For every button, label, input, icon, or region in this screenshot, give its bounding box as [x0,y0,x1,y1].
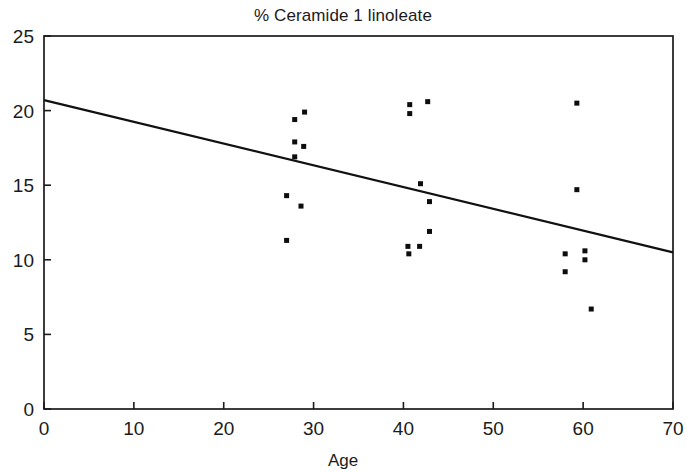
data-point [417,244,422,249]
data-point [418,181,423,186]
data-point [563,269,568,274]
data-point [425,99,430,104]
y-tick-label-15: 15 [13,175,34,196]
data-points [284,99,594,311]
x-axis-ticks [44,402,673,409]
data-point [301,144,306,149]
data-point [406,251,411,256]
data-point [292,154,297,159]
data-point [589,307,594,312]
data-point [427,229,432,234]
data-point [574,187,579,192]
data-point [284,193,289,198]
data-point [582,248,587,253]
x-tick-label-70: 70 [662,418,683,439]
y-tick-label-20: 20 [13,101,34,122]
plot-frame [44,36,673,409]
data-point [582,257,587,262]
x-axis-tick-labels: 010203040506070 [39,418,684,439]
x-tick-label-20: 20 [213,418,234,439]
scatter-plot: 010203040506070 0510152025 Age [0,0,686,473]
y-axis-tick-labels: 0510152025 [13,26,34,420]
x-tick-label-10: 10 [123,418,144,439]
data-point [427,199,432,204]
data-point [302,110,307,115]
y-tick-label-5: 5 [23,324,34,345]
data-point [292,139,297,144]
data-point [407,102,412,107]
data-point [292,117,297,122]
y-tick-label-25: 25 [13,26,34,47]
y-tick-label-10: 10 [13,250,34,271]
data-point [298,204,303,209]
data-point [284,238,289,243]
x-tick-label-40: 40 [393,418,414,439]
y-axis-ticks [44,36,51,409]
data-point [405,244,410,249]
x-tick-label-60: 60 [573,418,594,439]
x-tick-label-50: 50 [483,418,504,439]
y-tick-label-0: 0 [23,399,34,420]
data-point [563,251,568,256]
regression-line [44,100,673,252]
chart-figure: % Ceramide 1 linoleate 010203040506070 0… [0,0,686,473]
data-point [574,101,579,106]
x-tick-label-0: 0 [39,418,50,439]
x-axis-title: Age [328,451,358,470]
x-tick-label-30: 30 [303,418,324,439]
data-point [407,111,412,116]
